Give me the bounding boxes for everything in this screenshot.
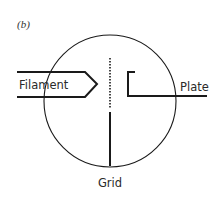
grid-label: Grid	[98, 176, 122, 190]
filament-label: Filament	[19, 78, 69, 92]
triode-diagram: (b) Filament Grid Plate	[0, 0, 217, 200]
plate-label: Plate	[180, 80, 209, 94]
panel-label: (b)	[17, 18, 30, 31]
